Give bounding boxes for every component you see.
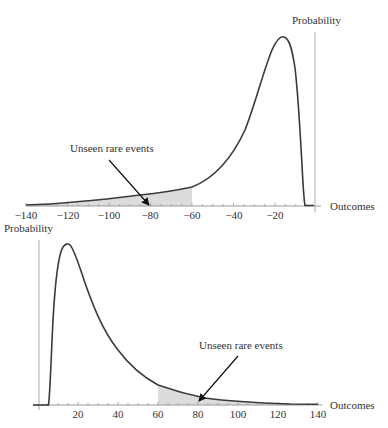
tick-label: −60 xyxy=(183,209,201,221)
bottom-chart: 20 40 60 80 100 120 140 Probability Outc… xyxy=(4,222,375,420)
top-chart: −140 −120 −100 −80 −60 −40 −20 Probabili… xyxy=(15,14,375,221)
tick-label: 80 xyxy=(193,408,205,420)
tick-label: 120 xyxy=(270,408,287,420)
top-density-curve xyxy=(26,37,314,206)
tick-label: −120 xyxy=(57,209,80,221)
top-x-tick-labels: −140 −120 −100 −80 −60 −40 −20 xyxy=(15,209,284,221)
tick-label: 40 xyxy=(113,408,125,420)
tick-label: 20 xyxy=(73,408,85,420)
top-y-axis-label: Probability xyxy=(292,14,341,26)
top-x-axis-label: Outcomes xyxy=(330,200,375,212)
tick-label: −80 xyxy=(141,209,159,221)
tick-label: −20 xyxy=(266,209,284,221)
tick-label: −140 xyxy=(15,209,38,221)
bottom-density-curve xyxy=(33,244,318,405)
top-annotation-label: Unseen rare events xyxy=(70,142,154,154)
figure: −140 −120 −100 −80 −60 −40 −20 Probabili… xyxy=(0,0,388,428)
bottom-annotation-arrow xyxy=(199,356,238,401)
bottom-y-axis-label: Probability xyxy=(4,222,53,234)
bottom-x-tick-labels: 20 40 60 80 100 120 140 xyxy=(73,408,327,420)
tick-label: 140 xyxy=(310,408,327,420)
tick-label: −40 xyxy=(225,209,243,221)
bottom-annotation-label: Unseen rare events xyxy=(199,339,283,351)
tick-label: 60 xyxy=(153,408,165,420)
tick-label: 100 xyxy=(230,408,247,420)
bottom-x-axis-label: Outcomes xyxy=(330,399,375,411)
tick-label: −100 xyxy=(98,209,121,221)
